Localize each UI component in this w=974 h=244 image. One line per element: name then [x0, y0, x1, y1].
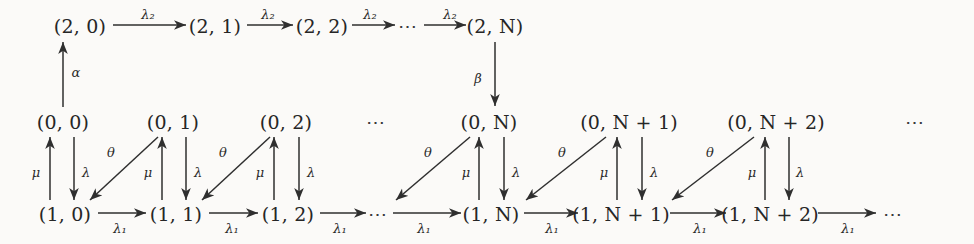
rate-label-e-bot-6: λ₁ — [693, 221, 706, 236]
rate-label-e-mu-N: μ — [462, 165, 470, 180]
state-node-n2-2: (2, 2) — [296, 15, 348, 37]
rate-label-e-the-0: θ — [107, 145, 115, 160]
rate-label-e-bot-4: λ₁ — [417, 221, 430, 236]
ellipsis-bot-dots-left: ⋯ — [368, 203, 388, 225]
rate-label-e-bot-1: λ₁ — [113, 221, 126, 236]
transition-arrow-a-the-N — [396, 137, 470, 200]
state-node-n2-N: (2, N) — [467, 15, 524, 37]
rate-label-e-mu-N1: μ — [600, 165, 608, 180]
state-node-n1-0: (1, 0) — [39, 203, 91, 225]
state-node-n0-N2: (0, N + 2) — [727, 111, 825, 133]
rate-label-e-bot-2: λ₁ — [225, 221, 238, 236]
rate-label-e-bot-3: λ₁ — [333, 221, 346, 236]
state-node-n0-2: (0, 2) — [260, 111, 312, 133]
rate-label-e-bot-5: λ₁ — [545, 221, 558, 236]
state-node-n0-0: (0, 0) — [37, 111, 89, 133]
ellipsis-bot-dots-right: ⋯ — [883, 203, 903, 225]
state-transition-diagram: (2, 0)(2, 1)(2, 2)(2, N)(0, 0)(0, 1)(0, … — [0, 0, 974, 244]
rate-label-e-top-4: λ₂ — [443, 7, 456, 22]
ellipsis-top-dots: ⋯ — [398, 15, 418, 37]
state-node-n1-2: (1, 2) — [262, 203, 314, 225]
state-node-n1-N2: (1, N + 2) — [721, 203, 819, 225]
rate-label-e-top-3: λ₂ — [363, 7, 376, 22]
rate-label-e-lam-N1: λ — [650, 165, 658, 180]
state-node-n1-N: (1, N) — [463, 203, 520, 225]
rate-label-e-mu-N2: μ — [748, 165, 756, 180]
state-node-n1-1: (1, 1) — [150, 203, 202, 225]
rate-label-e-the-N1: θ — [558, 145, 566, 160]
rate-label-e-mu-2: μ — [256, 165, 264, 180]
rate-label-e-lam-2: λ — [307, 165, 315, 180]
rate-label-e-bot-7: λ₁ — [841, 221, 854, 236]
state-node-n1-N1: (1, N + 1) — [572, 203, 670, 225]
rate-label-e-alpha: α — [72, 65, 81, 80]
rate-label-e-lam-N2: λ — [796, 165, 804, 180]
ellipsis-mid-dots-right: ⋯ — [905, 111, 925, 133]
state-node-n0-N1: (0, N + 1) — [580, 111, 678, 133]
rate-label-e-mu-1: μ — [144, 165, 152, 180]
rate-label-e-lam-N: λ — [512, 165, 520, 180]
rate-label-e-top-1: λ₂ — [141, 7, 154, 22]
rate-label-e-the-N2: θ — [706, 145, 714, 160]
rate-label-e-the-N: θ — [424, 145, 432, 160]
state-node-n0-N: (0, N) — [461, 111, 518, 133]
state-node-n2-0: (2, 0) — [54, 15, 106, 37]
rate-label-e-beta: β — [474, 71, 482, 86]
rate-label-e-top-2: λ₂ — [261, 7, 274, 22]
rate-label-e-lam-1: λ — [194, 165, 202, 180]
state-node-n2-1: (2, 1) — [189, 15, 241, 37]
rate-label-e-lam-0: λ — [82, 165, 90, 180]
state-node-n0-1: (0, 1) — [147, 111, 199, 133]
rate-label-e-mu-0: μ — [32, 165, 40, 180]
rate-label-e-the-1: θ — [219, 145, 227, 160]
ellipsis-mid-dots-left: ⋯ — [366, 111, 386, 133]
